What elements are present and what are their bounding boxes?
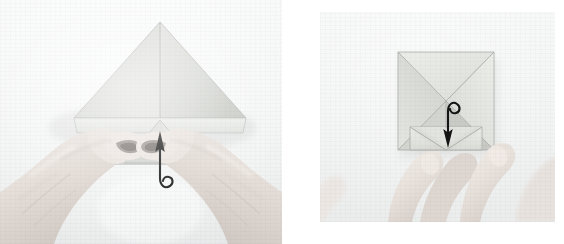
- screenshot-root: Two hands holding a folded square of pal…: [0, 0, 564, 244]
- step-photo-right: A square sheet with X-shaped diagonal cr…: [320, 12, 555, 222]
- origami-scene-right: [320, 12, 555, 222]
- folded-square: [398, 52, 494, 150]
- origami-scene-left: [0, 0, 282, 244]
- step-photo-left: Two hands holding a folded square of pal…: [0, 0, 282, 244]
